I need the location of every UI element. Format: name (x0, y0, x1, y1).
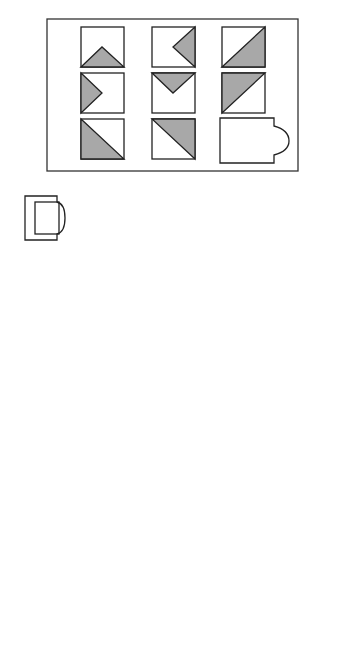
figure-a (25, 19, 298, 240)
matrix-a-cell-3-1 (81, 119, 124, 159)
matrix-a-cell-1-3 (222, 27, 265, 67)
matrix-a-cell-2-3 (222, 73, 265, 113)
matrix-a-cell-1-1 (81, 27, 124, 67)
option-a-1[interactable] (25, 196, 65, 240)
matrix-a-cell-1-2 (152, 27, 195, 67)
matrix-a-cell-3-2 (152, 119, 195, 159)
matrix-a-cell-2-2 (152, 73, 195, 113)
matrix-a-cell-2-1 (81, 73, 124, 113)
figure-canvas (0, 0, 346, 672)
